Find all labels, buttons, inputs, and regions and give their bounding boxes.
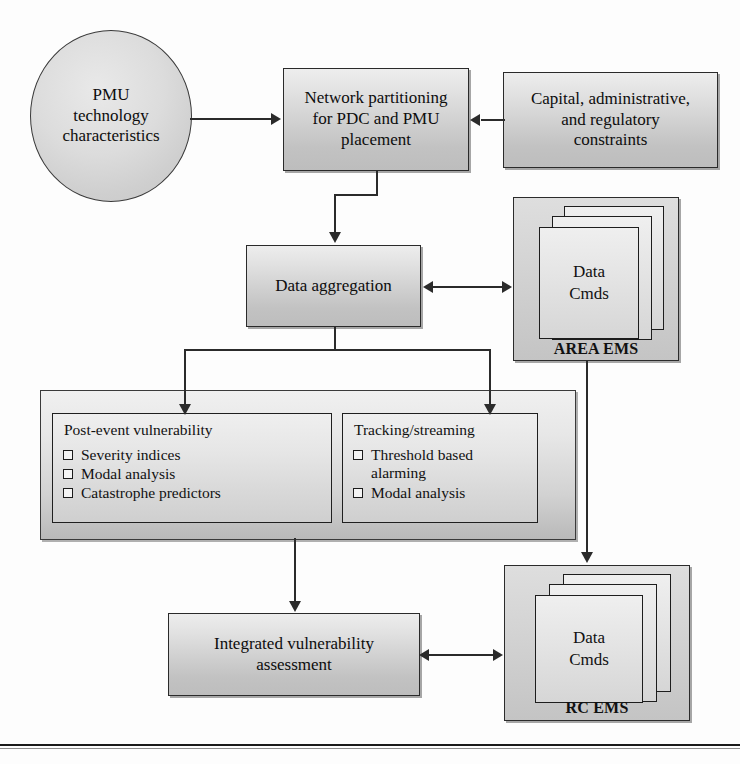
panel-post-event-vulnerability: Post-event vulnerability Severity indice…: [52, 413, 332, 523]
arrowhead-icon: [289, 601, 301, 612]
area-ems-card-front: Data Cmds: [539, 227, 639, 339]
tracking-item-2: Modal analysis: [371, 484, 465, 501]
checkbox-icon: [63, 450, 73, 460]
area-ems-card-line-2: Cmds: [569, 283, 609, 305]
integrated-line-2: assessment: [214, 655, 374, 676]
node-constraints: Capital, administrative, and regulatory …: [503, 72, 718, 168]
integrated-line-1: Integrated vulnerability: [214, 634, 374, 655]
rc-ems-label: RC EMS: [505, 699, 689, 717]
rc-ems-card-front: Data Cmds: [535, 595, 643, 703]
edge-analysis-to-integrated: [294, 538, 296, 603]
list-item: Modal analysis: [353, 484, 529, 502]
edge-aggregation-split-bar: [184, 349, 490, 351]
arrowhead-icon: [470, 114, 480, 126]
network-partitioning-line-2: for PDC and PMU: [304, 109, 447, 130]
tracking-item-1: Threshold based alarming: [371, 446, 473, 481]
arrowhead-icon: [329, 232, 341, 243]
edge-split-right-down: [489, 349, 491, 406]
diagram-canvas: PMU technology characteristics Network p…: [0, 0, 740, 764]
list-item: Threshold based alarming: [353, 446, 529, 482]
edge-split-left-down: [184, 349, 186, 406]
constraints-line-2: and regulatory: [531, 110, 690, 131]
edge-aggregation-down-stub: [334, 327, 336, 350]
list-item: Catastrophe predictors: [63, 484, 323, 502]
post-event-item-list: Severity indices Modal analysis Catastro…: [63, 446, 323, 502]
arrowhead-icon: [493, 649, 503, 661]
tracking-header: Tracking/streaming: [354, 421, 529, 439]
edge-integrated-to-rc-ems: [428, 654, 494, 656]
arrowhead-icon: [502, 281, 512, 293]
list-item: Modal analysis: [63, 465, 323, 483]
post-event-item-3: Catastrophe predictors: [81, 484, 221, 501]
rc-ems-card-line-1: Data: [573, 627, 605, 649]
edge-aggregation-to-area-ems: [432, 286, 502, 288]
arrowhead-icon: [419, 649, 429, 661]
checkbox-icon: [63, 469, 73, 479]
pmu-line-1: PMU: [62, 85, 159, 106]
node-area-ems: Data Cmds AREA EMS: [513, 197, 679, 361]
constraints-line-3: constraints: [531, 130, 690, 151]
edge-constraints-to-network: [481, 119, 505, 121]
pmu-line-2: technology: [62, 106, 159, 127]
pmu-line-3: characteristics: [62, 126, 159, 147]
area-ems-label: AREA EMS: [514, 340, 678, 358]
constraints-line-1: Capital, administrative,: [531, 89, 690, 110]
data-aggregation-label: Data aggregation: [275, 276, 392, 297]
post-event-item-2: Modal analysis: [81, 465, 175, 482]
checkbox-icon: [63, 488, 73, 498]
edge-network-to-aggregation: [334, 194, 336, 234]
page-bottom-rule-shadow: [0, 748, 740, 749]
post-event-item-1: Severity indices: [81, 446, 180, 463]
arrowhead-icon: [423, 281, 433, 293]
panel-tracking-streaming: Tracking/streaming Threshold based alarm…: [342, 413, 538, 523]
area-ems-card-line-1: Data: [573, 261, 605, 283]
page-bottom-rule: [0, 744, 740, 746]
tracking-item-list: Threshold based alarming Modal analysis: [353, 446, 529, 502]
arrowhead-icon: [179, 404, 191, 415]
node-data-aggregation: Data aggregation: [246, 245, 421, 327]
checkbox-icon: [353, 450, 363, 460]
edge-pmu-to-network: [190, 118, 272, 120]
checkbox-icon: [353, 488, 363, 498]
node-integrated-vulnerability-assessment: Integrated vulnerability assessment: [168, 613, 420, 696]
node-rc-ems: Data Cmds RC EMS: [504, 565, 690, 721]
node-network-partitioning: Network partitioning for PDC and PMU pla…: [283, 68, 469, 171]
edge-area-ems-to-rc-ems: [586, 361, 588, 553]
node-pmu-technology-characteristics: PMU technology characteristics: [30, 30, 192, 202]
network-partitioning-line-3: placement: [304, 130, 447, 151]
arrowhead-icon: [484, 404, 496, 415]
network-partitioning-line-1: Network partitioning: [304, 88, 447, 109]
list-item: Severity indices: [63, 446, 323, 464]
edge-network-elbow: [334, 194, 378, 196]
arrowhead-icon: [271, 113, 281, 125]
edge-network-down-stub: [376, 171, 378, 195]
arrowhead-icon: [581, 552, 593, 563]
rc-ems-card-line-2: Cmds: [569, 649, 609, 671]
post-event-header: Post-event vulnerability: [64, 421, 323, 439]
